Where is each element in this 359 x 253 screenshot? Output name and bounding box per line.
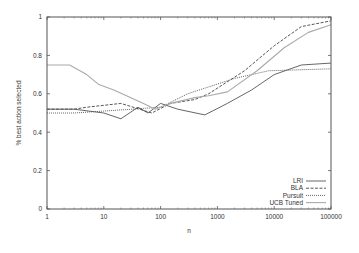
y-tick-label: 0 (38, 205, 42, 212)
series-line-ucb-tuned (47, 25, 331, 109)
y-axis-title: % best action selected (15, 80, 22, 145)
x-axis-title: n (187, 227, 191, 234)
legend-label-lri: LRI (293, 177, 303, 184)
x-tick-label: 10 (100, 213, 108, 220)
x-tick-label: 10000 (265, 213, 283, 220)
x-tick-label: 1 (45, 213, 49, 220)
x-tick-label: 100 (155, 213, 166, 220)
series-layer (47, 21, 331, 119)
y-tick-label: 0.8 (33, 52, 42, 59)
series-line-pursuit (47, 69, 331, 113)
series-line-lri (47, 63, 331, 119)
line-chart: 00.20.40.60.81110100100010000100000 n % … (0, 0, 359, 253)
y-tick-label: 1 (38, 13, 42, 20)
y-tick-label: 0.4 (33, 129, 42, 136)
x-tick-label: 100000 (320, 213, 342, 220)
legend-label-bla: BLA (291, 184, 304, 191)
plot-frame (47, 17, 331, 209)
y-tick-label: 0.2 (33, 167, 42, 174)
legend-label-pursuit: Pursuit (283, 192, 303, 199)
x-tick-label: 1000 (210, 213, 225, 220)
legend-label-ucb-tuned: UCB Tuned (269, 199, 303, 206)
y-tick-label: 0.6 (33, 90, 42, 97)
legend: LRIBLAPursuitUCB Tuned (269, 177, 326, 206)
